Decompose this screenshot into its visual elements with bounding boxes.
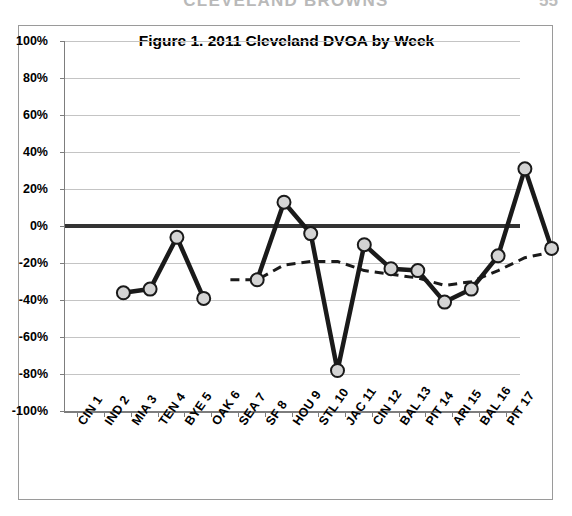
y-axis-tick-label: 40% (0, 145, 48, 159)
y-axis-tick-label: -20% (0, 256, 48, 270)
page-number: 55 (539, 0, 558, 11)
series-line (257, 169, 551, 371)
data-point-marker (411, 264, 424, 277)
y-tick-mark (60, 374, 65, 375)
data-point-marker (492, 249, 505, 262)
y-tick-mark (60, 300, 65, 301)
data-point-marker (358, 238, 371, 251)
y-tick-mark (60, 152, 65, 153)
data-point-marker (438, 296, 451, 309)
series-plot (110, 56, 565, 426)
y-axis-tick-label: -40% (0, 293, 48, 307)
data-point-marker (197, 292, 210, 305)
data-point-marker (385, 262, 398, 275)
y-axis-tick-label: 0% (0, 219, 48, 233)
gridline (65, 41, 520, 42)
y-axis-tick-label: 80% (0, 71, 48, 85)
series-line (123, 237, 203, 298)
data-point-marker (331, 364, 344, 377)
y-axis-tick-label: -100% (0, 404, 48, 418)
y-axis-tick-label: 60% (0, 108, 48, 122)
data-point-marker (304, 227, 317, 240)
data-point-marker (465, 283, 478, 296)
running-head: CLEVELAND BROWNS (0, 0, 572, 11)
y-axis-tick-label: -80% (0, 367, 48, 381)
data-point-marker (144, 283, 157, 296)
y-tick-mark (60, 263, 65, 264)
data-point-marker (545, 242, 558, 255)
y-axis-tick-label: 100% (0, 34, 48, 48)
data-point-marker (251, 273, 264, 286)
y-tick-mark (60, 41, 65, 42)
y-axis-tick-label: -60% (0, 330, 48, 344)
y-tick-mark (60, 226, 65, 227)
data-point-marker (117, 286, 130, 299)
y-tick-mark (60, 189, 65, 190)
y-tick-mark (60, 115, 65, 116)
data-point-marker (518, 162, 531, 175)
plot-area (64, 41, 519, 411)
data-point-marker (170, 231, 183, 244)
y-tick-mark (60, 337, 65, 338)
y-tick-mark (60, 78, 65, 79)
data-point-marker (278, 196, 291, 209)
y-axis-tick-label: 20% (0, 182, 48, 196)
figure-frame: Figure 1. 2011 Cleveland DVOA by Week 10… (18, 25, 553, 500)
